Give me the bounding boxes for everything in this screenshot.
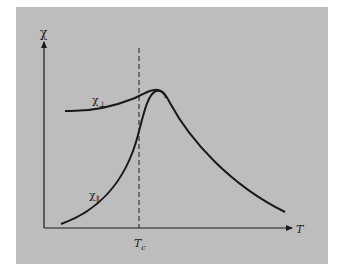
critical-temperature-label: Tc (134, 237, 146, 252)
y-axis-label: χ (40, 26, 48, 40)
chi-perpendicular-curve (65, 90, 166, 111)
chi-perpendicular-label: χ⊥ (92, 94, 106, 109)
chi-parallel-label: χ∥ (89, 189, 99, 204)
x-axis-label: T (296, 223, 305, 236)
chi-parallel-curve (61, 91, 285, 224)
susceptibility-diagram: χ T Tc χ⊥ χ∥ (0, 0, 341, 277)
